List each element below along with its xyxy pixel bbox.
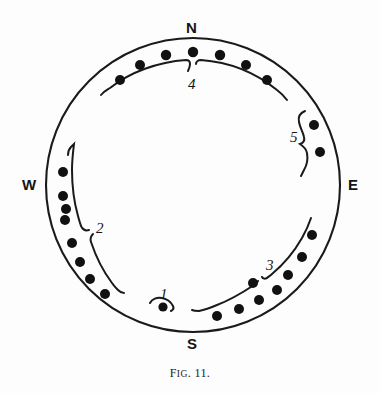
dot bbox=[58, 191, 68, 201]
group-2-arc-upper bbox=[68, 144, 89, 230]
dot bbox=[215, 50, 225, 60]
dot bbox=[158, 302, 167, 311]
figure-caption: FIG. 11. bbox=[0, 366, 380, 381]
dot bbox=[115, 75, 125, 85]
dot bbox=[315, 147, 325, 157]
group-3-arc-lower bbox=[192, 281, 258, 311]
dot bbox=[307, 230, 317, 240]
dot bbox=[283, 270, 293, 280]
dot bbox=[241, 60, 251, 70]
dot bbox=[262, 75, 272, 85]
figure-page: N S W E 1 2 3 4 5 FIG. 11. bbox=[0, 0, 380, 393]
group-label-5: 5 bbox=[290, 130, 298, 145]
dot bbox=[212, 311, 222, 321]
compass-label-east: E bbox=[348, 177, 358, 192]
compass-label-north: N bbox=[186, 20, 197, 35]
compass-label-west: W bbox=[22, 177, 36, 192]
dot bbox=[188, 47, 198, 57]
dot bbox=[60, 215, 70, 225]
group-label-1: 1 bbox=[160, 287, 168, 302]
group-4-arc-left bbox=[101, 60, 190, 95]
group-label-4: 4 bbox=[188, 77, 196, 92]
dot bbox=[61, 204, 71, 214]
dot bbox=[58, 167, 68, 177]
dot bbox=[75, 257, 85, 267]
compass-label-south: S bbox=[187, 336, 197, 351]
caption-suffix: . 11. bbox=[188, 366, 211, 380]
dot bbox=[161, 50, 171, 60]
group-2-arc-lower bbox=[91, 234, 124, 293]
dot bbox=[67, 238, 77, 248]
group-label-2: 2 bbox=[96, 221, 104, 236]
group-5-bracket bbox=[299, 111, 308, 176]
dot bbox=[297, 252, 307, 262]
dot bbox=[309, 120, 319, 130]
dot bbox=[272, 285, 282, 295]
dot bbox=[234, 304, 244, 314]
caption-small-caps: IG bbox=[177, 369, 188, 379]
group-label-3: 3 bbox=[266, 258, 274, 273]
dot bbox=[248, 278, 258, 288]
caption-prefix: F bbox=[170, 366, 177, 380]
dot bbox=[85, 274, 95, 284]
dot bbox=[100, 289, 110, 299]
dot bbox=[135, 60, 145, 70]
dot bbox=[254, 295, 264, 305]
